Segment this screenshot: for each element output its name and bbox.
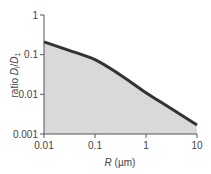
y-tick-label: 1	[32, 10, 38, 21]
y-tick-label: 0.001	[13, 129, 38, 140]
x-ticks: 0.010.1110	[34, 134, 203, 151]
x-tick-label: 0.01	[34, 140, 54, 151]
x-tick-label: 1	[143, 140, 149, 151]
x-tick-label: 0.1	[88, 140, 102, 151]
y-tick-label: 0.1	[24, 49, 38, 60]
x-axis-label: R (µm)	[105, 157, 136, 168]
chart-area: 0.0010.010.11 0.010.1110 R (µm) ratio Di…	[0, 0, 211, 174]
y-tick-label: 0.01	[19, 89, 39, 100]
x-tick-label: 10	[191, 140, 203, 151]
area-fill	[44, 42, 197, 134]
y-axis-label: ratio Di/D1	[9, 52, 21, 97]
